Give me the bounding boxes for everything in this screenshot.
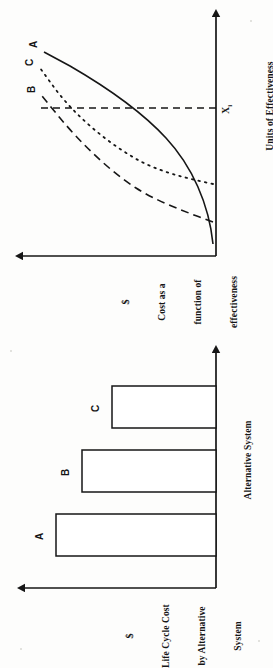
bar-b [82,450,216,492]
cost-effectiveness-chart: A B C Xi Units of Effectiveness (e.g., T… [0,0,273,334]
life-cycle-cost-chart: A B C Alternative System $ Life Cycle Co… [0,334,273,668]
scan-speckle [10,350,12,352]
y-axis-label-line3: System [232,592,244,668]
y-axis-label-line1: Cost as a [156,264,168,340]
y-axis-label: $ Cost as a function of effectiveness [96,264,264,340]
bar-label-a: A [34,533,45,540]
y-axis-currency-symbol: $ [120,264,132,340]
y-axis-label-line3: effectiveness [228,264,240,340]
curve-b [42,96,213,222]
x-axis-label: Units of Effectiveness (e.g., Target Des… [240,6,273,206]
series-label-b: B [26,86,37,93]
y-axis-currency-symbol: $ [124,592,136,668]
scanned-figure-page: A B C Xi Units of Effectiveness (e.g., T… [0,0,273,668]
y-axis-label: $ Life Cycle Cost by Alternative System [100,592,268,668]
curve-a [44,52,213,244]
bar-label-c: C [90,405,101,412]
reference-tick-subscript: i [226,105,234,107]
x-axis-label: Alternative System [242,370,254,550]
series-label-a: A [28,41,39,48]
scan-speckle [250,20,252,22]
series-label-c: C [24,59,35,66]
bar-a [56,514,216,556]
scan-speckle [20,648,22,650]
y-axis-label-line2: function of [192,264,204,340]
y-axis-label-line2: by Alternative [196,592,208,668]
x-axis-label-line1: Units of Effectiveness [264,6,273,206]
y-axis-label-line1: Life Cycle Cost [160,592,172,668]
bar-label-b: B [60,469,71,476]
reference-tick-label: Xi [220,105,234,114]
scan-speckle [258,640,260,642]
reference-tick-text: X [220,107,231,114]
bar-c [112,386,216,428]
